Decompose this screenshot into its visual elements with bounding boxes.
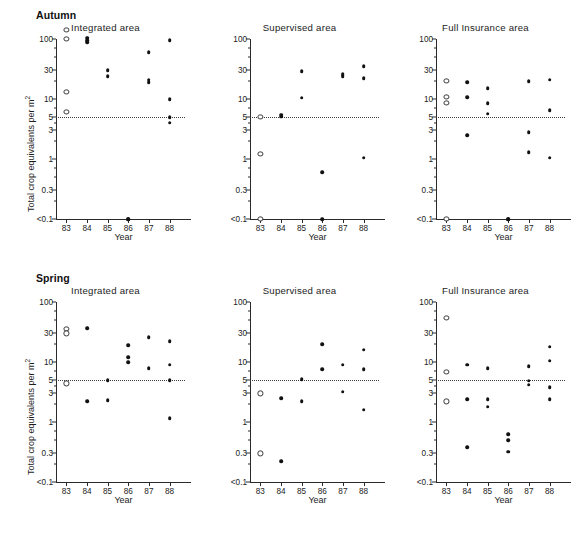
x-tick-mark <box>108 219 109 223</box>
threshold-line <box>436 117 565 118</box>
y-tick-mark-minor <box>434 311 437 312</box>
data-point-observed <box>106 398 110 402</box>
x-tick-mark <box>529 482 530 486</box>
y-tick-label: 10 <box>424 95 433 104</box>
x-axis-label: Year <box>250 495 385 505</box>
data-point-observed <box>362 368 366 372</box>
y-tick-label: 0.3 <box>42 186 53 195</box>
y-tick-mark-minor <box>434 385 437 386</box>
data-point-baseline <box>444 78 449 83</box>
y-tick-label: 30 <box>424 66 433 75</box>
y-tick-mark-minor <box>434 403 437 404</box>
y-tick-mark-minor <box>54 57 57 58</box>
y-tick-label: 0.3 <box>422 186 433 195</box>
panel-title: Integrated area <box>18 22 193 33</box>
panel-title: Integrated area <box>18 285 193 296</box>
y-tick-mark-minor <box>434 200 437 201</box>
y-tick-label: 30 <box>424 329 433 338</box>
y-tick-label: 3 <box>242 126 247 135</box>
y-tick-mark-minor <box>434 431 437 432</box>
data-point-observed <box>168 363 172 367</box>
y-tick-label: 10 <box>424 358 433 367</box>
y-tick-label: <0.1 <box>417 478 433 487</box>
x-tick-mark <box>550 482 551 486</box>
data-point-observed <box>168 121 172 125</box>
data-point-observed <box>362 65 366 69</box>
threshold-line <box>56 117 185 118</box>
y-tick-mark-minor <box>54 371 57 372</box>
x-tick-mark <box>364 482 365 486</box>
data-point-observed <box>300 96 304 100</box>
plot-area: 10030105310.3<0.1838485868788 <box>56 302 184 482</box>
y-tick-mark-minor <box>54 140 57 141</box>
data-point-observed <box>147 335 151 339</box>
x-tick-mark <box>66 482 67 486</box>
y-tick-mark-minor <box>54 177 57 178</box>
x-tick-mark <box>322 482 323 486</box>
x-axis-line <box>250 219 385 220</box>
plot-area: 10030105310.3<0.1838485868788 <box>56 39 184 219</box>
data-point-observed <box>465 445 469 449</box>
data-point-observed <box>320 368 324 372</box>
x-tick-mark <box>170 219 171 223</box>
data-point-observed <box>362 348 366 352</box>
threshold-line <box>250 117 379 118</box>
data-point-observed <box>168 378 172 382</box>
y-tick-label: 5 <box>428 113 433 122</box>
data-point-observed <box>279 115 283 119</box>
data-point-observed <box>300 69 304 73</box>
y-tick-mark-minor <box>434 440 437 441</box>
data-point-observed <box>486 367 490 371</box>
y-tick-label: 1 <box>48 418 53 427</box>
x-tick-mark <box>364 219 365 223</box>
y-tick-label: 5 <box>428 376 433 385</box>
y-tick-label: 0.3 <box>236 186 247 195</box>
data-point-observed <box>465 133 469 137</box>
data-point-observed <box>506 450 510 454</box>
y-tick-label: 100 <box>39 298 53 307</box>
plot-area: 10030105310.3<0.1838485868788 <box>250 39 378 219</box>
y-tick-mark-minor <box>54 403 57 404</box>
data-point-observed <box>106 74 110 78</box>
y-tick-mark-minor <box>248 431 251 432</box>
data-point-observed <box>126 343 130 347</box>
y-tick-label: <0.1 <box>37 478 53 487</box>
data-point-observed <box>527 364 531 368</box>
y-tick-mark-minor <box>434 108 437 109</box>
y-tick-mark-minor <box>248 80 251 81</box>
data-point-observed <box>147 80 151 84</box>
y-tick-mark-minor <box>248 343 251 344</box>
data-point-observed <box>300 377 304 381</box>
y-tick-mark-minor <box>248 108 251 109</box>
y-tick-label: 3 <box>48 389 53 398</box>
threshold-line <box>250 380 379 381</box>
data-point-baseline <box>64 331 69 336</box>
season-header-autumn: Autumn <box>36 9 76 21</box>
y-tick-label: 1 <box>428 418 433 427</box>
y-tick-mark-minor <box>248 200 251 201</box>
x-tick-mark <box>66 219 67 223</box>
y-tick-label: 100 <box>419 35 433 44</box>
x-tick-mark <box>302 482 303 486</box>
y-axis-label: Total crop equivalents per m2 <box>24 359 36 475</box>
y-tick-mark-minor <box>434 177 437 178</box>
x-tick-mark <box>529 219 530 223</box>
y-tick-mark-minor <box>434 57 437 58</box>
y-tick-label: 10 <box>238 358 247 367</box>
y-tick-label: <0.1 <box>37 215 53 224</box>
data-point-baseline <box>444 101 449 106</box>
y-tick-mark-minor <box>434 343 437 344</box>
x-tick-mark <box>260 482 261 486</box>
data-point-observed <box>506 433 510 437</box>
data-point-observed <box>85 41 89 45</box>
panel-title: Supervised area <box>212 285 387 296</box>
y-tick-label: 100 <box>233 35 247 44</box>
data-point-observed <box>465 397 469 401</box>
plot-area: 10030105310.3<0.1838485868788 <box>436 39 564 219</box>
data-point-observed <box>341 390 345 394</box>
x-tick-mark <box>343 219 344 223</box>
y-tick-mark-minor <box>54 431 57 432</box>
y-tick-mark-minor <box>248 311 251 312</box>
data-point-observed <box>486 397 490 401</box>
y-tick-mark-minor <box>54 385 57 386</box>
